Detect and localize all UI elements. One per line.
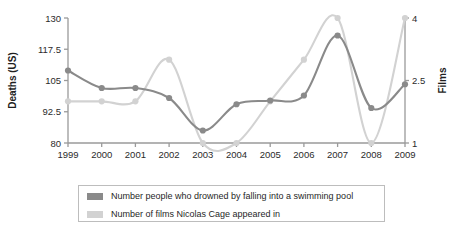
x-tick-label: 2002 bbox=[159, 149, 180, 160]
right-tick-label: 1 bbox=[412, 138, 417, 149]
data-point[interactable] bbox=[368, 105, 374, 111]
x-tick-label: 2001 bbox=[125, 149, 146, 160]
legend-item-deaths[interactable]: Number people who drowned by falling int… bbox=[87, 187, 384, 205]
data-point[interactable] bbox=[368, 140, 374, 146]
series-deaths bbox=[65, 32, 408, 133]
series-line bbox=[68, 15, 405, 151]
data-point[interactable] bbox=[65, 98, 71, 104]
left-tick-label: 92.5 bbox=[43, 106, 62, 117]
data-point[interactable] bbox=[267, 97, 273, 103]
data-point[interactable] bbox=[335, 32, 341, 38]
x-tick-label: 2004 bbox=[226, 149, 247, 160]
x-tick-label: 2000 bbox=[91, 149, 112, 160]
right-tick-label: 2.5 bbox=[412, 75, 425, 86]
series-films bbox=[65, 15, 408, 151]
data-point[interactable] bbox=[166, 57, 172, 63]
x-tick-label: 2006 bbox=[293, 149, 314, 160]
data-point[interactable] bbox=[335, 15, 341, 21]
left-axis-title: Deaths (US) bbox=[7, 52, 18, 109]
chart-legend: Number people who drowned by falling int… bbox=[78, 185, 385, 222]
data-point[interactable] bbox=[200, 127, 206, 133]
data-point[interactable] bbox=[233, 101, 239, 107]
data-point[interactable] bbox=[301, 57, 307, 63]
right-tick-label: 4 bbox=[412, 13, 417, 24]
x-tick-label: 1999 bbox=[57, 149, 78, 160]
x-tick-label: 2003 bbox=[192, 149, 213, 160]
data-point[interactable] bbox=[200, 140, 206, 146]
left-tick-label: 105 bbox=[45, 75, 61, 86]
left-tick-label: 80 bbox=[50, 138, 61, 149]
legend-item-films[interactable]: Number of films Nicolas Cage appeared in bbox=[87, 205, 384, 223]
x-tick-label: 2007 bbox=[327, 149, 348, 160]
data-point[interactable] bbox=[99, 85, 105, 91]
data-point[interactable] bbox=[402, 81, 408, 87]
legend-label-films: Number of films Nicolas Cage appeared in bbox=[111, 209, 280, 219]
data-point[interactable] bbox=[99, 98, 105, 104]
data-point[interactable] bbox=[166, 95, 172, 101]
right-axis-title: Films bbox=[437, 67, 448, 94]
data-point[interactable] bbox=[301, 92, 307, 98]
data-point[interactable] bbox=[132, 85, 138, 91]
legend-swatch-films bbox=[87, 211, 103, 218]
x-tick-label: 2008 bbox=[361, 149, 382, 160]
legend-swatch-deaths bbox=[87, 193, 103, 200]
x-tick-label: 2005 bbox=[260, 149, 281, 160]
data-point[interactable] bbox=[65, 67, 71, 73]
data-point[interactable] bbox=[402, 15, 408, 21]
x-tick-label: 2009 bbox=[394, 149, 415, 160]
left-tick-label: 117.5 bbox=[38, 44, 61, 55]
legend-label-deaths: Number people who drowned by falling int… bbox=[111, 191, 353, 201]
data-point[interactable] bbox=[132, 98, 138, 104]
data-point[interactable] bbox=[233, 140, 239, 146]
left-tick-label: 130 bbox=[45, 13, 61, 24]
